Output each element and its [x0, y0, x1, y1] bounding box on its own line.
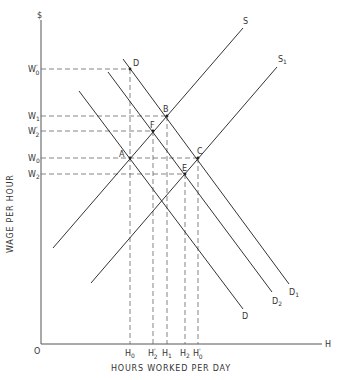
- wage-tick-label: W2: [28, 170, 40, 180]
- wage-tick-label: W1: [28, 112, 40, 122]
- equilibrium-point: [129, 157, 132, 160]
- y-axis-title: WAGE PER HOUR: [6, 174, 15, 253]
- supply-curve-label: S: [243, 17, 248, 26]
- dashed-guide-lines: W'0W1W'2W0W2H0H'2H1H2H'0: [28, 63, 203, 360]
- point-label: D: [133, 59, 139, 68]
- demand-curve-d2: [108, 72, 272, 292]
- point-label: B: [163, 105, 169, 114]
- hours-tick-label: H1: [162, 349, 172, 359]
- equilibrium-point: [184, 173, 187, 176]
- origin-label: O: [34, 347, 40, 356]
- demand-curve-label: D1: [289, 288, 299, 298]
- wage-tick-label: W0: [28, 154, 40, 164]
- supply-curve-s1: [91, 67, 277, 283]
- hours-tick-label: H'2: [148, 347, 158, 360]
- wage-tick-label: W'0: [28, 63, 40, 76]
- x-axis-symbol: H: [325, 340, 331, 349]
- demand-curve-label: D2: [272, 297, 282, 307]
- equilibrium-point: [129, 68, 132, 71]
- supply-demand-curves: SS1D1D2D: [53, 17, 299, 321]
- hours-tick-label: H2: [180, 349, 190, 359]
- hours-tick-label: H'0: [193, 347, 203, 360]
- hours-tick-label: H0: [125, 349, 135, 359]
- point-label: C: [197, 147, 203, 156]
- y-axis-symbol: $: [37, 11, 42, 20]
- demand-curve-d1: [123, 59, 289, 284]
- demand-curve-label: D: [242, 312, 248, 321]
- point-label: A: [119, 150, 125, 159]
- supply-curve-label: S1: [278, 55, 287, 65]
- equilibrium-point: [197, 157, 200, 160]
- equilibrium-point: [166, 115, 169, 118]
- labor-supply-demand-diagram: W'0W1W'2W0W2H0H'2H1H2H'0 SS1D1D2D DBFACE…: [0, 0, 343, 380]
- axis-labels: $ H O HOURS WORKED PER DAY WAGE PER HOUR: [6, 11, 331, 373]
- point-label: E: [182, 164, 187, 173]
- equilibrium-point: [152, 130, 155, 133]
- point-label: F: [150, 121, 155, 130]
- wage-tick-label: W'2: [28, 125, 40, 138]
- x-axis-title: HOURS WORKED PER DAY: [111, 364, 231, 373]
